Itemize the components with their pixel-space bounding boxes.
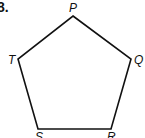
vertex-label-t: T bbox=[8, 54, 15, 66]
pentagon-shape bbox=[0, 0, 145, 138]
vertex-label-p: P bbox=[69, 2, 77, 14]
pentagon-outline bbox=[18, 16, 131, 129]
vertex-label-r: R bbox=[107, 131, 116, 138]
vertex-label-s: S bbox=[35, 131, 43, 138]
vertex-label-q: Q bbox=[134, 54, 143, 66]
pentagon-figure: 8. P Q T S R bbox=[0, 0, 145, 138]
